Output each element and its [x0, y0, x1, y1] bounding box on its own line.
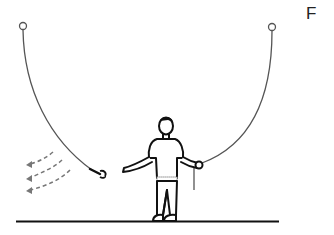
motion-arrows-icon [30, 152, 70, 190]
diagram-panel: F [0, 0, 334, 235]
left-shoe [153, 215, 163, 221]
right-hook-ring-icon [269, 24, 276, 31]
arrowheads [26, 161, 32, 194]
right-rope [202, 31, 272, 163]
person-figure [123, 117, 203, 221]
left-rope [23, 30, 92, 170]
illustration [0, 0, 334, 235]
legs [157, 181, 177, 215]
right-hand [196, 162, 203, 169]
left-hook-ring-icon [20, 23, 27, 30]
right-shoe [164, 215, 176, 221]
wrench-icon [90, 169, 106, 178]
left-arm [123, 157, 152, 172]
torso [149, 139, 183, 178]
